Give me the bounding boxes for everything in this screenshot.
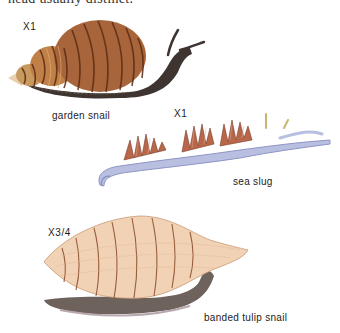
banded-tulip-snail-illustration bbox=[0, 0, 340, 333]
banded-tulip-snail-label: banded tulip snail bbox=[204, 312, 287, 323]
